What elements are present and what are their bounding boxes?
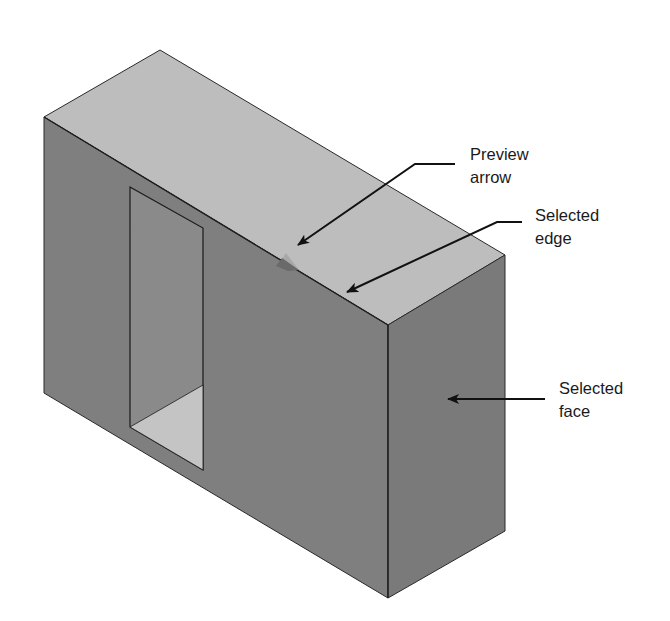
- callout-preview-arrow-label: Preview arrow: [470, 143, 529, 189]
- block-isometric-figure: [0, 0, 670, 621]
- callout-selected-edge-label: Selected edge: [535, 204, 599, 250]
- callout-selected-face-label: Selected face: [559, 377, 623, 423]
